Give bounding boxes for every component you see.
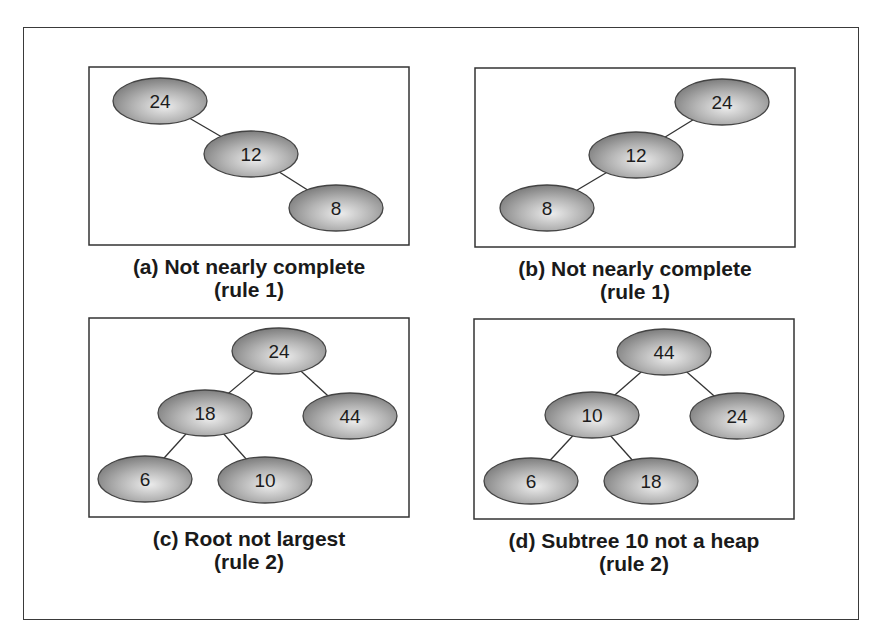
caption-d: (d) Subtree 10 not a heap(rule 2) bbox=[434, 529, 834, 575]
caption-rule: (rule 1) bbox=[435, 280, 835, 303]
node-label: 12 bbox=[240, 144, 261, 165]
caption-rule: (rule 2) bbox=[49, 550, 449, 573]
node-label: 44 bbox=[653, 342, 675, 363]
node-label: 44 bbox=[339, 406, 361, 427]
tree-node: 24 bbox=[690, 393, 784, 439]
tree-node: 24 bbox=[675, 79, 769, 125]
node-label: 18 bbox=[640, 471, 661, 492]
node-label: 8 bbox=[331, 198, 342, 219]
tree-node: 18 bbox=[604, 458, 698, 504]
caption-c: (c) Root not largest(rule 2) bbox=[49, 527, 449, 573]
panel-a: 24128 bbox=[89, 67, 409, 245]
tree-node: 12 bbox=[204, 131, 298, 177]
tree-node: 10 bbox=[218, 457, 312, 503]
tree-node: 8 bbox=[500, 185, 594, 231]
node-label: 24 bbox=[726, 406, 748, 427]
caption-title: (c) Root not largest bbox=[49, 527, 449, 550]
tree-node: 44 bbox=[617, 329, 711, 375]
tree-node: 6 bbox=[98, 456, 192, 502]
tree-node: 6 bbox=[484, 458, 578, 504]
panel-b: 24128 bbox=[475, 68, 795, 247]
node-label: 24 bbox=[149, 91, 171, 112]
node-label: 8 bbox=[542, 198, 553, 219]
tree-node: 8 bbox=[289, 185, 383, 231]
caption-title: (d) Subtree 10 not a heap bbox=[434, 529, 834, 552]
tree-node: 24 bbox=[232, 328, 326, 374]
node-label: 12 bbox=[625, 145, 646, 166]
node-label: 24 bbox=[711, 92, 733, 113]
panel-d: 441024618 bbox=[474, 319, 794, 519]
caption-title: (b) Not nearly complete bbox=[435, 257, 835, 280]
caption-title: (a) Not nearly complete bbox=[49, 255, 449, 278]
node-label: 6 bbox=[526, 471, 537, 492]
caption-a: (a) Not nearly complete(rule 1) bbox=[49, 255, 449, 301]
tree-node: 18 bbox=[158, 390, 252, 436]
node-label: 10 bbox=[254, 470, 275, 491]
panel-c: 241844610 bbox=[89, 318, 409, 517]
caption-rule: (rule 1) bbox=[49, 278, 449, 301]
node-label: 6 bbox=[140, 469, 151, 490]
node-label: 10 bbox=[581, 405, 602, 426]
caption-rule: (rule 2) bbox=[434, 552, 834, 575]
node-label: 24 bbox=[268, 341, 290, 362]
tree-node: 44 bbox=[303, 393, 397, 439]
tree-node: 10 bbox=[545, 392, 639, 438]
caption-b: (b) Not nearly complete(rule 1) bbox=[435, 257, 835, 303]
node-label: 18 bbox=[194, 403, 215, 424]
tree-node: 24 bbox=[113, 78, 207, 124]
tree-node: 12 bbox=[589, 132, 683, 178]
